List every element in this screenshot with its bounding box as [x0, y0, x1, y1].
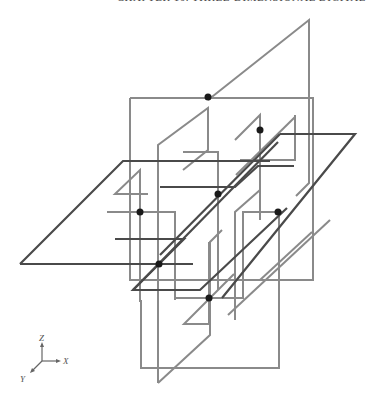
intersection-point: [275, 209, 282, 216]
intersection-point: [257, 127, 264, 134]
left-small-plane: [115, 170, 148, 302]
axis-indicator: Z X Y: [20, 333, 69, 384]
plane-intersection-diagram: Z X Y: [0, 0, 372, 402]
intersection-point: [137, 209, 144, 216]
intersection-point: [215, 191, 222, 198]
tall-back-plane: [208, 20, 309, 196]
intersection-point: [205, 94, 212, 101]
right-parallelogram: [222, 134, 355, 298]
inner-parallelogram: [160, 166, 294, 187]
center-dark-line: [133, 142, 278, 290]
y-axis-label: Y: [20, 374, 26, 384]
z-axis-label: Z: [39, 333, 45, 343]
right-diagonal: [260, 232, 312, 280]
x-arrow-icon: [56, 359, 61, 363]
intersection-point: [206, 295, 213, 302]
center-vertical-plane: [158, 108, 208, 383]
bottom-plane: [158, 230, 222, 383]
x-axis-label: X: [62, 356, 69, 366]
horizontal-planes: [20, 134, 355, 298]
intersection-point: [156, 261, 163, 268]
